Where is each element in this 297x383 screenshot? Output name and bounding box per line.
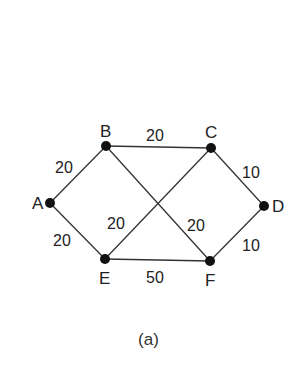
node-label: A [32,194,44,213]
node-label: C [205,123,217,142]
edge-weight-label: 20 [187,217,205,234]
edge-weight-label: 20 [55,159,73,176]
node-C [206,143,216,153]
node-label: D [272,197,284,216]
edge-weight-label: 10 [242,237,260,254]
edge-A-E [50,203,105,259]
edge-B-C [106,146,211,148]
figure-caption: (a) [0,330,297,350]
edge-weight-label: 20 [146,127,164,144]
node-D [259,201,269,211]
edge-weight-label: 50 [146,269,164,286]
edge-E-F [105,259,210,261]
node-E [100,254,110,264]
edge-weight-label: 20 [107,215,125,232]
node-label: B [100,122,111,141]
node-label: F [205,271,215,290]
node-F [205,256,215,266]
edge-weight-label: 20 [53,232,71,249]
node-A [45,198,55,208]
node-B [101,141,111,151]
edge-weight-label: 10 [242,164,260,181]
edge-E-C [105,148,211,259]
node-label: E [99,269,110,288]
weighted-graph: 2020202020101050ABCDEF [0,0,297,383]
